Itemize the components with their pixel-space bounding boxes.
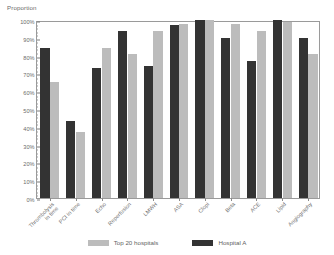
bar-hospital-a [40, 48, 49, 198]
bar-top-20-hospitals [153, 31, 162, 198]
y-axis-tick-mark [37, 146, 40, 147]
legend-label: Top 20 hospitals [114, 239, 159, 246]
y-axis-minor-tick [37, 121, 38, 122]
y-axis-tick-mark [37, 164, 40, 165]
bar-hospital-a [170, 25, 179, 198]
x-axis-label: LMWH [142, 201, 158, 217]
bar-hospital-a [273, 20, 282, 198]
bar-group [92, 22, 111, 198]
y-axis-minor-tick [37, 178, 38, 179]
bar-top-20-hospitals [76, 132, 85, 198]
bar-group [170, 22, 189, 198]
bar-group [221, 22, 240, 198]
y-axis-minor-tick [37, 82, 38, 83]
bar-group [144, 22, 163, 198]
y-axis-tick-label: 40% [23, 126, 37, 132]
y-axis-minor-tick [37, 171, 38, 172]
y-axis-minor-tick [37, 64, 38, 65]
y-axis-minor-tick [37, 167, 38, 168]
y-axis-tick-mark [37, 39, 40, 40]
bar-group [66, 22, 85, 198]
y-axis-minor-tick [37, 32, 38, 33]
y-axis-minor-tick [37, 153, 38, 154]
y-axis-tick-mark [37, 57, 40, 58]
x-axis-label: ASA [172, 201, 184, 213]
bar-top-20-hospitals [102, 48, 111, 198]
y-axis-minor-tick [37, 36, 38, 37]
y-axis-minor-tick [37, 46, 38, 47]
bars-layer [37, 22, 319, 198]
bar-top-20-hospitals [205, 20, 214, 198]
bar-top-20-hospitals [257, 31, 266, 198]
y-axis-tick-label: 100% [20, 19, 37, 25]
y-axis-minor-tick [37, 175, 38, 176]
bar-top-20-hospitals [179, 24, 188, 198]
bar-group [195, 22, 214, 198]
y-axis-tick-label: 50% [23, 108, 37, 114]
y-axis-minor-tick [37, 157, 38, 158]
y-axis-minor-tick [37, 189, 38, 190]
chart-legend: Top 20 hospitals Hospital A [0, 239, 334, 246]
y-axis-minor-tick [37, 185, 38, 186]
y-axis-minor-tick [37, 100, 38, 101]
legend-item-hospital-a: Hospital A [192, 239, 246, 246]
y-axis-minor-tick [37, 29, 38, 30]
y-axis-tick-mark [37, 111, 40, 112]
x-axis-label: Reperfusion [107, 201, 133, 227]
y-axis-minor-tick [37, 143, 38, 144]
bar-top-20-hospitals [231, 24, 240, 198]
y-axis-tick-label: 80% [23, 55, 37, 61]
y-axis-tick-label: 90% [23, 37, 37, 43]
x-axis-label: Echo [94, 201, 107, 214]
bar-group [273, 22, 292, 198]
bar-hospital-a [66, 121, 75, 198]
y-axis-minor-tick [37, 160, 38, 161]
y-axis-minor-tick [37, 139, 38, 140]
y-axis-tick-label: 30% [23, 144, 37, 150]
x-axis-label: PCI in time [57, 201, 81, 225]
bar-hospital-a [299, 38, 308, 198]
legend-swatch-icon [192, 240, 213, 246]
y-axis-minor-tick [37, 78, 38, 79]
y-axis-minor-tick [37, 114, 38, 115]
y-axis-minor-tick [37, 96, 38, 97]
legend-swatch-icon [88, 240, 109, 246]
y-axis-tick-mark [37, 93, 40, 94]
x-axis-label: ACE [249, 201, 261, 213]
y-axis-minor-tick [37, 50, 38, 51]
y-axis-minor-tick [37, 43, 38, 44]
y-axis-minor-tick [37, 61, 38, 62]
bar-group [118, 22, 137, 198]
y-axis-tick-mark [37, 22, 40, 23]
y-axis-minor-tick [37, 103, 38, 104]
legend-label: Hospital A [218, 239, 246, 246]
bar-chart: Proportion 0%10%20%30%40%50%60%70%80%90%… [0, 0, 334, 255]
y-axis-minor-tick [37, 25, 38, 26]
bar-top-20-hospitals [50, 82, 59, 198]
y-axis-minor-tick [37, 118, 38, 119]
y-axis-minor-tick [37, 125, 38, 126]
bar-top-20-hospitals [283, 22, 292, 198]
x-axis-labels: Thrombolysisin timePCI in timeEchoReperf… [36, 201, 320, 243]
bar-hospital-a [195, 20, 204, 198]
x-axis-label: Beta [223, 201, 235, 213]
bar-hospital-a [92, 68, 101, 198]
bar-hospital-a [247, 61, 256, 198]
bar-top-20-hospitals [128, 54, 137, 198]
bar-group [247, 22, 266, 198]
y-axis-minor-tick [37, 71, 38, 72]
y-axis-minor-tick [37, 86, 38, 87]
bar-group [40, 22, 59, 198]
y-axis-minor-tick [37, 132, 38, 133]
y-axis-tick-mark [37, 182, 40, 183]
y-axis-tick-label: 70% [23, 72, 37, 78]
bar-top-20-hospitals [308, 54, 317, 198]
x-axis-label: Angiography [287, 201, 313, 227]
y-axis-tick-label: 10% [23, 179, 37, 185]
y-axis-minor-tick [37, 107, 38, 108]
y-axis-minor-tick [37, 89, 38, 90]
y-axis-minor-tick [37, 196, 38, 197]
y-axis-minor-tick [37, 135, 38, 136]
bar-hospital-a [118, 31, 127, 198]
plot-area: 0%10%20%30%40%50%60%70%80%90%100% [36, 21, 320, 199]
